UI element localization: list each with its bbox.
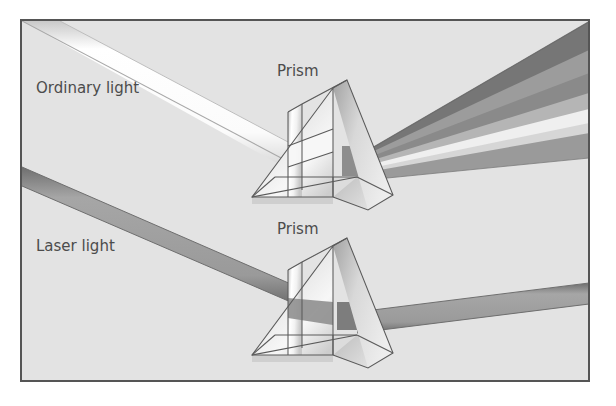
laser-light-label: Laser light — [36, 237, 115, 255]
ordinary-light-label: Ordinary light — [36, 79, 139, 97]
prism-top-base-edge — [252, 197, 333, 204]
prism-dispersion-figure: Ordinary light Laser light Prism Prism — [0, 0, 616, 406]
prism-top-label: Prism — [277, 62, 319, 80]
prism-bottom-base-edge — [252, 355, 333, 362]
figure-canvas: Ordinary light Laser light Prism Prism — [0, 0, 616, 406]
prism-bottom-label: Prism — [277, 220, 319, 238]
